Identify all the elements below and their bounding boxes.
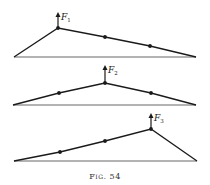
- string-diagram-1: F1: [14, 12, 196, 57]
- string-diagrams: F1F2F3: [0, 0, 210, 185]
- load-point: [58, 150, 62, 154]
- load-point: [103, 35, 107, 39]
- force-label: F3: [153, 113, 164, 124]
- arrowhead-icon: [103, 65, 108, 70]
- load-point: [148, 44, 152, 48]
- load-point: [103, 139, 107, 143]
- force-label: F2: [107, 65, 118, 76]
- string-line: [14, 28, 196, 57]
- string-line: [13, 83, 196, 105]
- string-diagram-3: F3: [14, 113, 197, 161]
- arrowhead-icon: [56, 12, 61, 17]
- string-diagram-2: F2: [13, 65, 196, 105]
- arrowhead-icon: [149, 113, 154, 118]
- load-point: [57, 91, 61, 95]
- load-point: [149, 91, 153, 95]
- string-line: [14, 129, 197, 161]
- force-label: F1: [60, 12, 71, 23]
- figure-caption: Fig. 54: [0, 172, 210, 181]
